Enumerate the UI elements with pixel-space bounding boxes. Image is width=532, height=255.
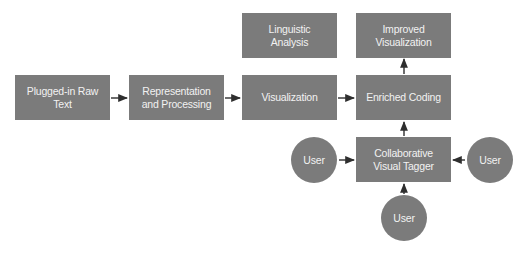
node-label: Collaborative Visual Tagger (370, 147, 437, 173)
node-label: Linguistic Analysis (264, 23, 315, 49)
diagram-canvas: Plugged-in Raw Text Representation and P… (0, 0, 532, 255)
node-label: Representation and Processing (137, 85, 216, 111)
node-enriched-coding: Enriched Coding (356, 75, 451, 120)
user-icon-label: User (303, 154, 324, 167)
node-visualization: Visualization (242, 75, 337, 120)
node-label: Visualization (261, 91, 317, 104)
node-user-bottom: User (381, 195, 427, 241)
node-linguistic-analysis: Linguistic Analysis (242, 13, 337, 58)
node-improved-visualization: Improved Visualization (356, 13, 451, 58)
user-icon-label: User (393, 212, 414, 225)
node-collaborative-visual-tagger: Collaborative Visual Tagger (356, 137, 451, 182)
node-user-right: User (467, 137, 513, 183)
node-label: Plugged-in Raw Text (23, 85, 102, 111)
node-representation-and-processing: Representation and Processing (129, 75, 224, 120)
node-user-left: User (291, 137, 337, 183)
user-icon-label: User (479, 154, 500, 167)
node-plugged-in-raw-text: Plugged-in Raw Text (15, 75, 110, 120)
node-label: Enriched Coding (366, 91, 441, 104)
node-label: Improved Visualization (370, 23, 437, 49)
